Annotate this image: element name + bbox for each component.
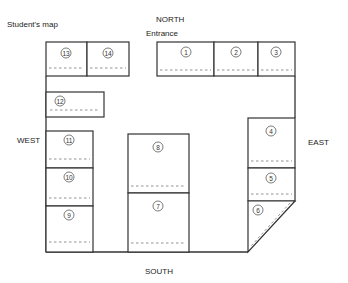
stall-6-number: 6	[256, 207, 260, 214]
stall-7[interactable]: 7	[128, 193, 189, 252]
stall-13-number: 13	[62, 50, 70, 57]
map-title: Student's map	[7, 20, 58, 29]
stall-5[interactable]: 5	[248, 168, 295, 201]
stall-4[interactable]: 4	[248, 118, 295, 168]
stall-11[interactable]: 11	[46, 131, 93, 168]
stall-5-number: 5	[269, 175, 273, 182]
stall-14-number: 14	[104, 50, 112, 57]
stall-3-number: 3	[274, 49, 278, 56]
stall-10-number: 10	[65, 174, 73, 181]
stall-11-number: 11	[66, 137, 73, 144]
south-label: SOUTH	[145, 267, 173, 276]
stall-8-number: 8	[156, 144, 160, 151]
stall-7-number: 7	[156, 203, 160, 210]
stall-12-number: 12	[56, 98, 64, 105]
stall-2-number: 2	[234, 49, 238, 56]
stall-1-number: 1	[184, 49, 188, 56]
stall-6[interactable]: 6	[248, 201, 295, 252]
stall-3[interactable]: 3	[258, 42, 295, 76]
stall-4-number: 4	[269, 128, 273, 135]
west-label: WEST	[17, 136, 40, 145]
stall-8[interactable]: 8	[128, 134, 189, 193]
stall-2[interactable]: 2	[214, 42, 258, 76]
stall-13[interactable]: 13	[46, 42, 87, 76]
stall-10[interactable]: 10	[46, 168, 93, 206]
stall-12[interactable]: 12	[46, 92, 104, 117]
stall-1[interactable]: 1	[157, 42, 214, 76]
east-label: EAST	[308, 138, 329, 147]
stall-9-number: 9	[67, 212, 71, 219]
entrance-label: Entrance	[146, 29, 179, 38]
stall-9[interactable]: 9	[46, 206, 93, 252]
stall-14[interactable]: 14	[87, 42, 129, 76]
student-map-diagram: Student's map NORTH Entrance WEST EAST S…	[0, 0, 348, 283]
north-label: NORTH	[156, 15, 185, 24]
